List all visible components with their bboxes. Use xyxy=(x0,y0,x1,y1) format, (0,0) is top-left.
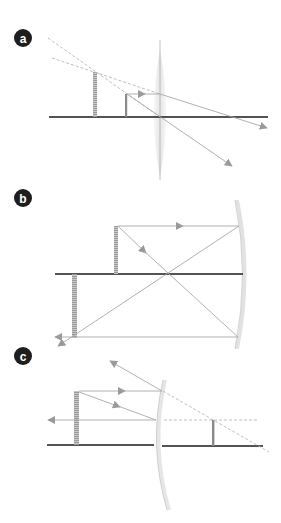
panel-label-b: b xyxy=(14,189,32,207)
panel-label-b-text: b xyxy=(19,192,26,206)
panel-label-a-text: a xyxy=(20,32,27,46)
panel-a: a xyxy=(14,29,268,180)
ray-a-center xyxy=(127,94,232,166)
real-image-b xyxy=(72,274,77,338)
ray-b-focal-in xyxy=(118,226,146,253)
object-a xyxy=(125,94,127,117)
panel-c: c xyxy=(14,347,269,510)
dashed-ray-c-diagonal xyxy=(163,391,269,452)
panel-label-c-text: c xyxy=(20,350,27,364)
convex-mirror xyxy=(156,380,171,510)
ray-c-focal-in xyxy=(79,392,120,407)
object-b xyxy=(114,226,118,274)
ray-b-reflected-1 xyxy=(58,226,239,346)
object-c xyxy=(74,391,79,445)
optics-diagram: a b xyxy=(0,0,281,523)
ray-a-refracted xyxy=(160,94,267,128)
ray-b-focal-rest xyxy=(144,251,238,337)
ray-c-reflected-1 xyxy=(110,361,162,391)
virtual-image-c xyxy=(212,420,214,446)
panel-label-c: c xyxy=(14,347,32,365)
panel-label-a: a xyxy=(14,29,32,47)
virtual-image-a xyxy=(93,72,97,117)
panel-b: b xyxy=(14,189,247,349)
ray-c-focal-rest xyxy=(118,406,156,420)
dashed-ray-a-2 xyxy=(52,58,160,94)
